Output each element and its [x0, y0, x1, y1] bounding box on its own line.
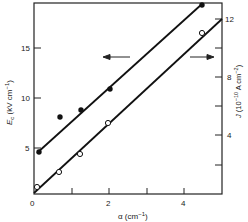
j-point	[34, 184, 39, 189]
y-left-tick-10: 10	[21, 94, 30, 103]
x-axis-ticks	[72, 188, 184, 194]
x-tick-2: 2	[106, 199, 111, 208]
j-point	[77, 151, 82, 156]
y-right-axis-label: J (10−10 A cm−2)	[233, 64, 243, 119]
ec-point	[107, 86, 112, 91]
chart: 0 2 4 α (cm−1) 15 10 5 Ec (kV cm−1) 12 8…	[0, 0, 248, 222]
y-left-tick-5: 5	[25, 144, 30, 153]
ec-point	[36, 149, 41, 154]
ec-point	[78, 107, 83, 112]
ec-fit-line	[37, 4, 202, 153]
y-right-tick-8: 8	[227, 73, 232, 82]
y-left-tick-15: 15	[21, 44, 30, 53]
plot-frame	[34, 3, 222, 194]
y-right-tick-4: 4	[227, 131, 232, 140]
y-right-tick-12: 12	[225, 15, 234, 24]
j-points	[34, 30, 204, 189]
y-left-axis-label: Ec (kV cm−1)	[4, 80, 15, 125]
j-point	[56, 169, 61, 174]
ec-point	[199, 2, 204, 7]
x-tick-4: 4	[181, 199, 186, 208]
y-right-ticks	[215, 19, 222, 165]
j-point	[199, 30, 204, 35]
x-tick-0: 0	[30, 199, 35, 208]
right-arrow-icon	[190, 55, 214, 60]
y-left-ticks	[34, 48, 41, 148]
j-fit-line	[34, 19, 222, 193]
x-axis-label: α (cm−1)	[118, 211, 148, 221]
j-point	[105, 120, 110, 125]
ec-point	[57, 114, 62, 119]
left-arrow-icon	[103, 55, 130, 60]
